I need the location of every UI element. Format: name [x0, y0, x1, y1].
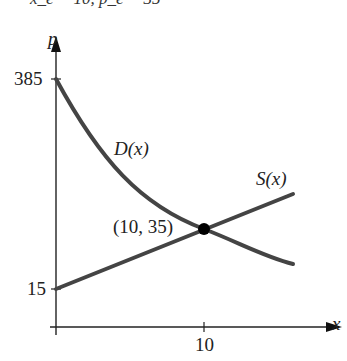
x-tick-label-10: 10: [195, 334, 214, 356]
x-axis: [50, 322, 342, 332]
demand-label: D(x): [114, 138, 149, 160]
y-tick-label-385: 385: [14, 68, 43, 90]
x-axis-label: x: [332, 313, 340, 335]
supply-demand-chart: [0, 0, 347, 361]
y-axis-label: p: [48, 28, 58, 50]
equilibrium-point: [198, 223, 210, 235]
supply-curve: [56, 194, 293, 289]
supply-label: S(x): [256, 168, 287, 190]
equilibrium-label: (10, 35): [113, 216, 173, 238]
y-tick-label-15: 15: [27, 278, 46, 300]
